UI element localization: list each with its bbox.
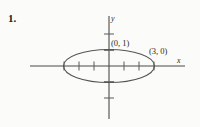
y-axis-label: y <box>110 14 115 23</box>
x-intercept-point-label: (3, 0) <box>149 46 168 56</box>
y-intercept-point-label: (0, 1) <box>111 38 130 48</box>
ellipse-graph-figure: y x (0, 1) (3, 0) <box>0 0 200 127</box>
x-axis-label: x <box>176 56 181 65</box>
figure-page: 1. y x (0, 1) (3, 0) <box>0 0 200 127</box>
